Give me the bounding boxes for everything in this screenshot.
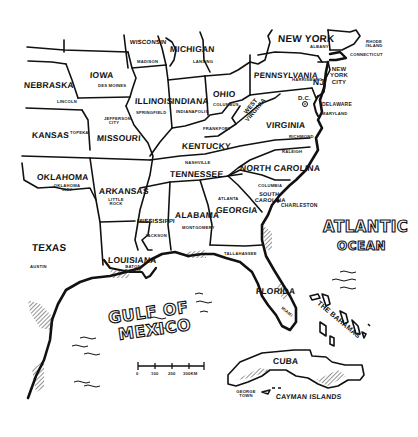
- capital-richmond: RICHMOND: [289, 135, 314, 139]
- label-michigan: MICHIGAN: [170, 45, 215, 54]
- capital-austin: AUSTIN: [30, 265, 47, 269]
- bahamas-island-6: [330, 336, 334, 346]
- label-ocean: OCEAN: [337, 240, 386, 252]
- capital-des-moines: DES MOINES: [98, 84, 126, 88]
- label-georgia: GEORGIA: [216, 206, 258, 215]
- capital-jackson: JACKSON: [145, 234, 167, 238]
- label-north-carolina: NORTH CAROLINA: [240, 164, 321, 173]
- border-ga-fl: [210, 245, 262, 246]
- capital-lansing: LANSING: [193, 60, 213, 64]
- border-ny-nj: [318, 56, 322, 62]
- label-cayman-islands: CAYMAN ISLANDS: [276, 393, 342, 400]
- border-arkansas-south: [100, 221, 135, 222]
- cayman-island: [262, 390, 270, 394]
- label-illinois: ILLINOIS: [135, 97, 173, 106]
- bahamas-island-5: [320, 322, 326, 336]
- scale-tick-300km: 300KM: [183, 372, 198, 376]
- lake-erie-ny: [250, 30, 272, 64]
- label-iowa: IOWA: [90, 71, 114, 80]
- chesapeake: [314, 96, 318, 116]
- capital-albany: ALBANY: [310, 45, 329, 49]
- capital-raleigh: RALEIGH: [282, 150, 302, 154]
- capital-atlanta: ATLANTA: [218, 197, 239, 201]
- label-arkansas: ARKANSAS: [99, 187, 149, 196]
- label-new-york-city: NEW YORK CITY: [330, 66, 348, 85]
- label-connecticut: CONNECTICUT: [350, 53, 383, 57]
- label-nebraska: NEBRASKA: [24, 81, 74, 90]
- label-cuba: CUBA: [273, 357, 299, 366]
- capital-montgomery: MONTGOMERY: [182, 226, 215, 230]
- capital-oklahoma-city: OKLAHOMA CITY: [52, 184, 82, 193]
- label-ohio: OHIO: [213, 90, 236, 99]
- capital-little-rock: LITTLE ROCK: [108, 198, 124, 207]
- scale-tick-100: 100: [151, 372, 159, 376]
- border-missouri-arkansas: [90, 158, 150, 160]
- label-nj: NJ: [313, 78, 325, 87]
- capital-baton-rouge: BATON ROUGE: [124, 265, 142, 274]
- label-oklahoma: OKLAHOMA: [37, 173, 89, 182]
- border-indiana-michigan: [168, 76, 205, 80]
- border-kansas-oklahoma: [22, 156, 90, 158]
- long-island: [330, 52, 346, 60]
- label-new-york: NEW YORK: [278, 34, 335, 44]
- capital-frankfort: FRANKFORT: [203, 127, 231, 131]
- capital-madison: MADISON: [137, 60, 158, 64]
- label-south-carolina: SOUTH CAROLINA: [255, 192, 284, 203]
- capital-columbus: COLUMBUS: [213, 103, 239, 107]
- label-tennessee: TENNESSEE: [170, 170, 224, 179]
- capital-columbia: COLUMBIA: [258, 184, 282, 188]
- label-alabama: ALABAMA: [175, 211, 220, 220]
- label-dc: D.C.: [298, 95, 311, 101]
- label-charleston: CHARLESTON: [281, 203, 318, 208]
- label-atlantic: ATLANTIC: [323, 220, 408, 235]
- label-rhode-island: RHODE ISLAND: [365, 40, 383, 49]
- label-florida: FLORIDA: [256, 287, 296, 296]
- border-nebraska-top: [28, 61, 66, 64]
- label-indiana: INDIANA: [172, 97, 209, 106]
- label-wisconsin: WISCONSIN: [130, 39, 167, 45]
- scale-tick-0: 0: [136, 372, 139, 376]
- border-iowa-missouri: [78, 97, 130, 98]
- label-george-town: GEORGE TOWN: [236, 390, 256, 399]
- label-delaware: DELAWARE: [322, 102, 352, 107]
- capital-jefferson-city: JEFFERSON CITY: [104, 117, 124, 126]
- bahamas-island-1: [310, 294, 320, 300]
- capital-lincoln: LINCOLN: [57, 100, 77, 104]
- label-maryland: MARYLAND: [322, 112, 347, 116]
- capital-nashville: NASHVILLE: [185, 161, 211, 165]
- label-kansas: KANSAS: [32, 131, 70, 140]
- label-virginia: VIRGINIA: [266, 121, 306, 130]
- border-dakota-nebraska: [27, 47, 128, 52]
- label-kentucky: KENTUCKY: [182, 142, 231, 151]
- capital-indianapolis: INDIANAPOLIS: [176, 110, 208, 114]
- border-wisconsin-illinois: [132, 65, 166, 68]
- scale-bar: [138, 362, 204, 370]
- border-nebraska-kansas: [26, 108, 82, 110]
- border-ky-mo: [150, 128, 172, 156]
- capital-tallahassee: TALLAHASSEE: [224, 252, 257, 256]
- capital-topeka: TOPEKA: [70, 131, 89, 135]
- label-mississippi: MISSISSIPPI: [137, 218, 175, 224]
- border-ms-al: [168, 182, 171, 250]
- label-missouri: MISSOURI: [97, 134, 141, 143]
- capital-springfield: SPRINGFIELD: [136, 111, 166, 115]
- label-texas: TEXAS: [32, 243, 67, 253]
- scale-tick-200: 200: [168, 372, 176, 376]
